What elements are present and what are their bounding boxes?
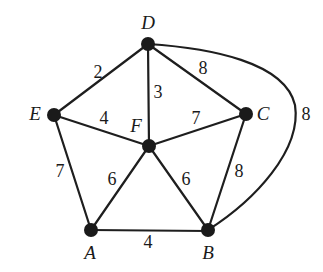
edge-d-c xyxy=(148,44,246,114)
node-label-d: D xyxy=(140,12,155,33)
weight-c-b: 8 xyxy=(235,161,244,181)
node-label-c: C xyxy=(257,103,270,124)
edge-d-f xyxy=(148,44,149,146)
weight-f-b: 6 xyxy=(182,169,191,189)
weight-d-c: 8 xyxy=(199,58,208,78)
weight-a-b: 4 xyxy=(144,232,153,252)
edge-d-b-curved xyxy=(148,44,296,230)
node-label-a: A xyxy=(82,242,96,263)
node-label-f: F xyxy=(129,115,142,136)
node-f xyxy=(142,139,156,153)
node-label-b: B xyxy=(202,242,214,263)
weight-d-b: 8 xyxy=(302,104,311,124)
edge-f-a xyxy=(91,146,149,230)
weight-d-f: 3 xyxy=(154,82,163,102)
weighted-graph: D E C F A B 2 3 8 4 7 7 6 6 8 4 8 xyxy=(0,0,323,272)
node-label-e: E xyxy=(28,103,41,124)
node-d xyxy=(141,37,155,51)
node-e xyxy=(47,108,61,122)
weight-f-a: 6 xyxy=(108,169,117,189)
weight-e-a: 7 xyxy=(56,161,65,181)
edge-a-b xyxy=(91,230,208,231)
node-a xyxy=(84,223,98,237)
edges xyxy=(54,44,296,231)
node-c xyxy=(239,107,253,121)
weight-e-f: 4 xyxy=(100,108,109,128)
weight-f-c: 7 xyxy=(192,108,201,128)
edge-weights: 2 3 8 4 7 7 6 6 8 4 8 xyxy=(56,58,311,252)
node-b xyxy=(201,223,215,237)
edge-f-b xyxy=(149,146,208,230)
weight-d-e: 2 xyxy=(94,62,103,82)
